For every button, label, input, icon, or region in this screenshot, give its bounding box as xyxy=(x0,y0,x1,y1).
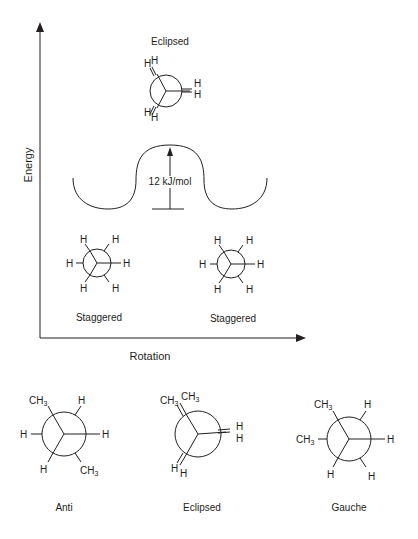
butane-eclipsed-newman: CH3 CH3 H H H H xyxy=(160,391,243,479)
conformation-diagram: Energy Rotation 12 kJ/mol Eclipsed H H H… xyxy=(0,0,418,539)
svg-text:CH3: CH3 xyxy=(296,434,314,446)
svg-text:H: H xyxy=(194,78,201,89)
svg-text:H: H xyxy=(236,433,243,444)
svg-text:H: H xyxy=(246,235,253,246)
svg-text:H: H xyxy=(123,258,130,269)
butane-gauche-newman: CH3 H CH3 H H H xyxy=(296,399,394,482)
rotation-axis xyxy=(40,334,306,342)
svg-text:H: H xyxy=(199,259,206,270)
y-axis-label: Energy xyxy=(22,147,34,182)
svg-text:H: H xyxy=(66,258,73,269)
svg-text:H: H xyxy=(214,235,221,246)
svg-text:H: H xyxy=(20,429,27,440)
svg-text:H: H xyxy=(151,112,158,123)
staggered-right-label: Staggered xyxy=(210,313,256,324)
svg-text:H: H xyxy=(236,421,243,432)
svg-text:H: H xyxy=(387,434,394,445)
svg-text:CH3: CH3 xyxy=(314,399,332,411)
anti-label: Anti xyxy=(55,502,72,513)
svg-text:H: H xyxy=(194,89,201,100)
eclipsed-peak-label: Eclipsed xyxy=(151,36,189,47)
svg-text:H: H xyxy=(112,283,119,294)
svg-text:H: H xyxy=(368,471,375,482)
svg-text:H: H xyxy=(214,284,221,295)
svg-text:H: H xyxy=(80,283,87,294)
svg-text:H: H xyxy=(40,464,47,475)
energy-axis xyxy=(36,22,44,338)
svg-text:H: H xyxy=(102,429,109,440)
svg-text:H: H xyxy=(257,259,264,270)
svg-text:CH3: CH3 xyxy=(29,395,47,407)
svg-text:CH3: CH3 xyxy=(80,465,98,477)
svg-text:H: H xyxy=(80,234,87,245)
svg-text:H: H xyxy=(246,284,253,295)
svg-text:H: H xyxy=(112,234,119,245)
ethane-staggered-right-newman: H H H H H H xyxy=(199,235,264,295)
ethane-eclipsed-newman: H H H H H H xyxy=(144,55,201,123)
eclipsed-butane-label: Eclipsed xyxy=(183,502,221,513)
svg-text:CH3: CH3 xyxy=(181,391,199,403)
gauche-label: Gauche xyxy=(331,502,366,513)
svg-text:CH3: CH3 xyxy=(160,395,178,407)
svg-text:H: H xyxy=(327,469,334,480)
ethane-staggered-left-newman: H H H H H H xyxy=(66,234,130,294)
svg-text:H: H xyxy=(151,55,158,66)
barrier-label: 12 kJ/mol xyxy=(149,176,192,187)
x-axis-label: Rotation xyxy=(130,350,171,362)
svg-text:H: H xyxy=(180,468,187,479)
svg-text:H: H xyxy=(171,463,178,474)
butane-anti-newman: CH3 H H H H CH3 xyxy=(20,395,109,477)
svg-text:H: H xyxy=(78,395,85,406)
staggered-left-label: Staggered xyxy=(76,312,122,323)
svg-text:H: H xyxy=(364,399,371,410)
